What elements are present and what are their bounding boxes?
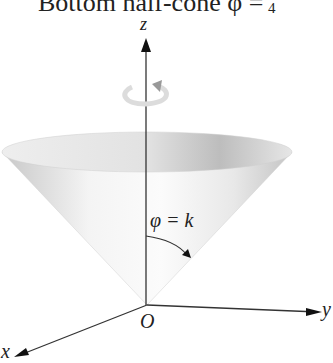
x-axis-arrow-icon bbox=[14, 348, 29, 357]
cone-opening bbox=[2, 132, 292, 172]
y-axis-arrow-icon bbox=[306, 308, 322, 316]
origin-label: O bbox=[140, 310, 154, 333]
cone-surface bbox=[2, 152, 292, 305]
angle-label: φ = k bbox=[150, 209, 193, 232]
y-axis-label: y bbox=[322, 298, 331, 321]
cone-diagram bbox=[0, 0, 333, 363]
x-axis-label: x bbox=[1, 340, 10, 363]
z-axis-label: z bbox=[140, 14, 147, 35]
z-axis-arrow-icon bbox=[141, 38, 151, 52]
